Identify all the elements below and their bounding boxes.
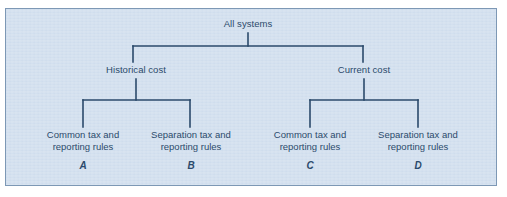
leaf-b-line1: Separation tax and <box>135 129 247 141</box>
leaf-c-line2: reporting rules <box>254 141 366 153</box>
node-root-all-systems: All systems <box>200 18 296 30</box>
leaf-node-a: Common tax and reporting rules <box>27 129 139 153</box>
leaf-node-c: Common tax and reporting rules <box>254 129 366 153</box>
figure-root: All systems Historical cost Current cost… <box>0 0 507 197</box>
leaf-b-line2: reporting rules <box>135 141 247 153</box>
node-branch-historical-cost: Historical cost <box>76 64 196 76</box>
node-branch-current-cost: Current cost <box>304 64 424 76</box>
leaf-d-line1: Separation tax and <box>362 129 474 141</box>
leaf-key-b: B <box>135 160 247 171</box>
leaf-key-c: C <box>254 160 366 171</box>
leaf-key-a: A <box>27 160 139 171</box>
paper-texture-overlay <box>6 9 496 185</box>
leaf-a-line2: reporting rules <box>27 141 139 153</box>
leaf-d-line2: reporting rules <box>362 141 474 153</box>
leaf-node-b: Separation tax and reporting rules <box>135 129 247 153</box>
leaf-a-line1: Common tax and <box>27 129 139 141</box>
leaf-node-d: Separation tax and reporting rules <box>362 129 474 153</box>
leaf-c-line1: Common tax and <box>254 129 366 141</box>
leaf-key-d: D <box>362 160 474 171</box>
